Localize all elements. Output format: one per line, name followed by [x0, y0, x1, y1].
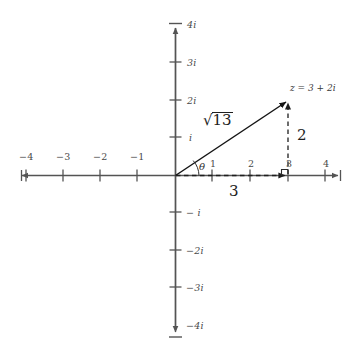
real-tick-label--1: −1	[130, 152, 144, 162]
imaginary-tick-label--4i: −4i	[186, 321, 204, 331]
complex-plane-figure: −4 −3 −2 −1 1 2 3 4 4i 3i 2i i − i −2i −…	[0, 0, 346, 350]
imaginary-tick-label--2i: −2i	[186, 246, 204, 256]
real-tick-label-4: 4	[323, 159, 329, 169]
real-tick-label--4: −4	[19, 152, 33, 162]
imaginary-tick-label-3i: 3i	[187, 58, 196, 68]
radicand: 13	[212, 112, 233, 128]
angle-label-theta: θ	[199, 162, 205, 172]
imaginary-axis	[169, 24, 182, 338]
real-tick-label--3: −3	[56, 152, 70, 162]
imaginary-tick-label--i: − i	[186, 208, 201, 218]
real-tick-label-3: 3	[286, 159, 292, 169]
point-label-z: z = 3 + 2i	[290, 84, 336, 93]
imaginary-tick-label-2i: 2i	[187, 96, 196, 106]
imaginary-tick-label-4i: 4i	[187, 20, 196, 30]
imaginary-tick-label-i: i	[189, 133, 192, 143]
hypotenuse-label: √13	[203, 112, 233, 128]
real-tick-label--2: −2	[93, 152, 107, 162]
imaginary-tick-label--3i: −3i	[186, 283, 204, 293]
real-tick-label-2: 2	[248, 159, 254, 169]
horizontal-leg-label: 3	[229, 184, 239, 199]
right-angle-marker	[282, 170, 289, 176]
argand-diagram-canvas	[0, 0, 346, 350]
vertical-leg-label: 2	[297, 128, 307, 143]
real-tick-label-1: 1	[210, 159, 216, 169]
